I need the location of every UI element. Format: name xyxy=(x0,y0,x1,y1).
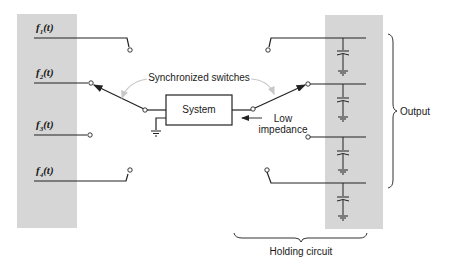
input-switch-arm xyxy=(94,85,144,109)
output-brace xyxy=(388,34,397,188)
holding-circuit-label: Holding circuit xyxy=(270,246,333,257)
synchronized-switches-label: Synchronized switches xyxy=(148,72,250,83)
system-label: System xyxy=(182,104,215,115)
input-terminal-1 xyxy=(128,48,132,52)
input-terminal-2 xyxy=(89,81,93,85)
input-terminal-4 xyxy=(128,168,132,172)
sync-arc-left xyxy=(122,79,147,98)
output-switch-pivot xyxy=(251,107,255,111)
sync-arc-right xyxy=(251,79,274,94)
output-terminal-4 xyxy=(265,168,269,172)
output-switch-arm xyxy=(255,85,305,108)
system-ground-wire xyxy=(156,118,166,130)
ground-icon xyxy=(151,131,161,136)
output-terminal-1 xyxy=(266,48,270,52)
output-terminal-3 xyxy=(306,135,310,139)
holding-circuit-brace xyxy=(234,233,367,242)
output-terminal-2 xyxy=(306,82,310,86)
low-impedance-label-2: impedance xyxy=(259,124,308,135)
input-switch-pivot xyxy=(143,108,147,112)
holding-panel xyxy=(325,15,383,229)
output-label: Output xyxy=(400,106,430,117)
input-terminal-3 xyxy=(88,133,92,137)
low-impedance-label-1: Low xyxy=(274,113,293,124)
multiplexing-diagram: f1(t) f2(t) f3(t) f4(t) System Low imped… xyxy=(0,0,449,265)
